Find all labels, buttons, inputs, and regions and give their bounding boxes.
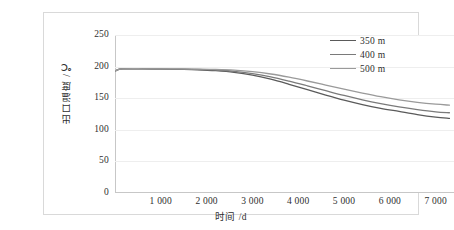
x-axis-tick: 7 000 [424, 196, 446, 206]
x-axis-tick: 4 000 [287, 196, 309, 206]
legend-item[interactable]: 500 m [330, 63, 386, 74]
x-axis-tick: 5 000 [333, 196, 355, 206]
x-axis-tick: 6 000 [379, 196, 401, 206]
series-lines [115, 35, 454, 193]
legend-label: 400 m [360, 50, 386, 60]
y-axis-tick: 200 [44, 61, 109, 71]
legend-line-icon [330, 40, 356, 41]
chart-legend: 350 m400 m500 m [330, 35, 386, 74]
y-axis-tick: 50 [44, 155, 109, 165]
x-axis-tick: 1 000 [150, 196, 172, 206]
legend-item[interactable]: 350 m [330, 35, 386, 46]
x-axis-label: 时间 /d [44, 209, 418, 223]
y-axis-tick: 150 [44, 92, 109, 102]
legend-line-icon [330, 68, 356, 69]
y-axis-tick: 0 [44, 187, 109, 197]
chart-frame: 出口温度 /℃ 050100150200250 1 0002 0003 0004… [43, 12, 419, 215]
plot-area [115, 35, 454, 193]
y-axis-tick: 250 [44, 29, 109, 39]
legend-label: 500 m [360, 64, 386, 74]
legend-item[interactable]: 400 m [330, 49, 386, 60]
x-axis-tick: 2 000 [195, 196, 217, 206]
x-axis-tick: 3 000 [241, 196, 263, 206]
y-axis-tick: 100 [44, 124, 109, 134]
legend-label: 350 m [360, 36, 386, 46]
series-line [115, 69, 449, 105]
legend-line-icon [330, 54, 356, 55]
